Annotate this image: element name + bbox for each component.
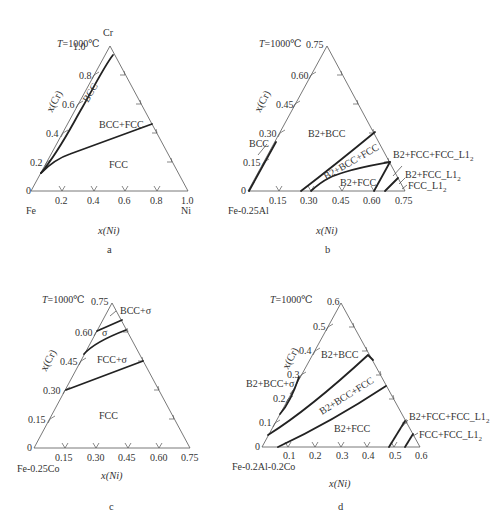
- tick-label: 0.30: [43, 385, 61, 396]
- panel-d-left-label: Fe-0.2Al-0.2Co: [232, 461, 295, 472]
- panel-c-fcc-sigma-boundary: [66, 361, 143, 390]
- tick-label: 0.6: [62, 99, 75, 110]
- tick-label: 0.2: [273, 393, 286, 404]
- region-label-bcc: BCC: [80, 81, 100, 104]
- tick-label: 0.6: [327, 296, 340, 307]
- tick-label: 0.45: [276, 99, 294, 110]
- panel-b-temperature: T=1000℃: [259, 38, 301, 49]
- tick-label: 0.60: [150, 452, 168, 463]
- panel-b-y-axis-label: x(Cr): [252, 88, 274, 114]
- panel-b: T=1000℃ 0 0.15 0.30 0.45 0.60 0.75 0.15 …: [228, 38, 474, 255]
- panel-c-left-label: Fe-0.25Co: [17, 463, 60, 474]
- tick-label: 0.15: [269, 195, 287, 206]
- tick-label: 0.8: [79, 70, 92, 81]
- region-label-bcc: BCC: [249, 138, 269, 149]
- tick-label: 0.5: [313, 321, 326, 332]
- tick-label: 0: [26, 185, 31, 196]
- panel-c-bcc-sigma-boundary: [97, 320, 122, 331]
- panel-d-caption: d: [338, 501, 344, 512]
- tick-label: 0.1: [259, 417, 272, 428]
- tick-label: 0.30: [87, 452, 105, 463]
- panel-c-temperature: T=1000℃: [42, 294, 84, 305]
- panel-a-apex-label: Cr: [103, 27, 114, 38]
- panel-d-l12-boundary-1: [389, 421, 405, 447]
- panel-d-l12-boundary-2: [405, 434, 413, 447]
- phase-diagram-figure: T=1000℃ Cr 0 0.2 0.4 0.6 0.8 1.0 0.2 0.4…: [0, 0, 503, 530]
- panel-a: T=1000℃ Cr 0 0.2 0.4 0.6 0.8 1.0 0.2 0.4…: [26, 27, 194, 255]
- tick-label: 0.4: [46, 128, 59, 139]
- tick-label: 0.15: [243, 157, 261, 168]
- region-label-fcc-sigma: FCC+σ: [97, 354, 128, 365]
- tick-label: 0.4: [362, 450, 375, 461]
- region-label-fcc-l12: FCC_L12: [408, 180, 447, 194]
- region-label-b2-bcc: B2+BCC: [321, 349, 359, 360]
- tick-label: 0.45: [332, 195, 350, 206]
- tick-label: 0: [255, 441, 260, 452]
- tick-label: 0.2: [30, 157, 43, 168]
- panel-d-leader-2: [413, 433, 418, 436]
- panel-d-x-axis-label: x(Ni): [328, 478, 351, 490]
- panel-b-l12-boundary-2: [385, 178, 398, 191]
- region-label-b2-fcc: B2+FCC: [340, 177, 377, 188]
- region-label-bcc-sigma: BCC+σ: [120, 305, 152, 316]
- region-label-b2-fcc-fcc-l12: B2+FCC+FCC_L12: [393, 149, 474, 163]
- region-label-sigma: σ: [102, 327, 108, 338]
- tick-label: 1.0: [73, 41, 86, 52]
- region-label-fcc: FCC: [109, 159, 128, 170]
- tick-label: 0.75: [181, 452, 199, 463]
- region-label-b2-bcc: B2+BCC: [308, 128, 346, 139]
- tick-label: 0: [27, 442, 32, 453]
- panel-c-ticks: [48, 328, 174, 448]
- panel-b-caption: b: [325, 244, 330, 255]
- tick-label: 0.2: [55, 195, 68, 206]
- tick-label: 0.75: [306, 39, 324, 50]
- tick-label: 0.45: [60, 356, 78, 367]
- region-label-b2-bcc-fcc: B2+BCC+FCC: [322, 141, 381, 182]
- tick-label: 0.8: [150, 195, 163, 206]
- panel-a-left-label: Fe: [26, 205, 37, 216]
- region-label-bcc-fcc: BCC+FCC: [99, 119, 144, 130]
- tick-label: 0.5: [389, 450, 402, 461]
- tick-label: 0.60: [291, 70, 309, 81]
- panel-c-y-axis-label: x(Cr): [38, 347, 60, 373]
- panel-d: T=1000℃ 0 0.1 0.2 0.3 0.4 0.5 0.6 0.1 0.…: [232, 294, 490, 512]
- tick-label: 0.60: [75, 327, 93, 338]
- panel-d-temperature: T=1000℃: [270, 294, 312, 305]
- tick-label: 0.1: [283, 450, 296, 461]
- region-label-b2-fcc: B2+FCC: [334, 423, 371, 434]
- tick-label: 0.2: [309, 450, 322, 461]
- tick-label: 0.4: [87, 195, 100, 206]
- panel-a-right-label: Ni: [181, 205, 191, 216]
- region-label-b2-fcc-fcc-l12: B2+FCC+FCC_L12: [409, 411, 490, 425]
- tick-label: 0.6: [415, 450, 428, 461]
- panel-c-leader: [110, 311, 116, 316]
- panel-a-x-axis-label: x(Ni): [97, 225, 120, 237]
- panel-b-left-label: Fe-0.25Al: [228, 205, 269, 216]
- panel-c: T=1000℃ 0 0.15 0.30 0.45 0.60 0.75 0.15 …: [17, 294, 199, 512]
- tick-label: 0.3: [336, 450, 349, 461]
- region-label-b2-bcc-sigma: B2+BCC+σ: [246, 378, 295, 389]
- panel-c-caption: c: [109, 501, 114, 512]
- region-label-fcc-fcc-l12: FCC+FCC_L12: [419, 429, 483, 443]
- panel-c-x-axis-label: x(Ni): [100, 470, 123, 482]
- tick-label: 0.30: [300, 195, 318, 206]
- tick-label: 0: [241, 185, 246, 196]
- tick-label: 0.75: [395, 195, 413, 206]
- tick-label: 0.15: [55, 452, 73, 463]
- panel-a-caption: a: [107, 244, 112, 255]
- tick-label: 0.15: [28, 414, 46, 425]
- panel-b-l12-boundary-1: [374, 162, 390, 191]
- panel-b-x-axis-label: x(Ni): [315, 225, 338, 237]
- tick-label: 0.6: [118, 195, 131, 206]
- tick-label: 0.60: [363, 195, 381, 206]
- region-label-fcc: FCC: [99, 410, 118, 421]
- tick-label: 0.75: [91, 296, 109, 307]
- tick-label: 0.4: [299, 345, 312, 356]
- tick-label: 0.45: [118, 452, 136, 463]
